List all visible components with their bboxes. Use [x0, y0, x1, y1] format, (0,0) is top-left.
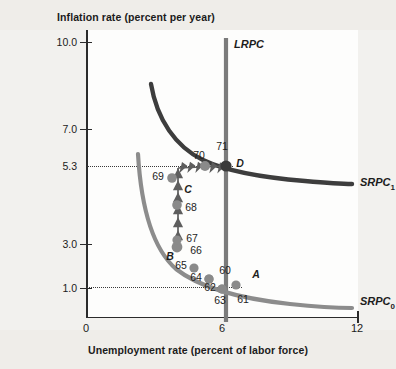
- adjustment-path-arrows: [174, 163, 226, 240]
- data-point-67: [172, 235, 181, 244]
- point-label-62: 62: [204, 281, 216, 293]
- point-label-66: 66: [190, 244, 202, 256]
- srpc1-label-text: SRPC: [360, 176, 391, 188]
- point-label-70: 70: [193, 149, 205, 161]
- point-label-71: 71: [216, 140, 228, 152]
- srpc0-label-subscript: 0: [391, 302, 395, 311]
- lrpc-label: LRPC: [234, 38, 264, 50]
- data-point-70: [200, 161, 210, 171]
- point-label-68: 68: [185, 201, 197, 213]
- srpc1-label: SRPC1: [360, 176, 395, 191]
- point-label-61: 61: [237, 293, 249, 305]
- data-point-63: [217, 284, 226, 293]
- point-label-64: 64: [190, 271, 202, 283]
- phillips-curve-figure: Inflation rate (percent per year) Unempl…: [0, 0, 396, 369]
- point-label-67: 67: [186, 232, 198, 244]
- data-point-61: [231, 280, 240, 289]
- point-label-63: 63: [214, 294, 226, 306]
- srpc0-label-text: SRPC: [360, 295, 391, 307]
- equilibrium-label-c: C: [184, 183, 192, 195]
- point-label-60: 60: [219, 264, 231, 276]
- point-label-69: 69: [152, 170, 164, 182]
- srpc1-label-subscript: 1: [391, 183, 395, 192]
- equilibrium-label-d: D: [236, 157, 244, 169]
- data-point-69: [167, 173, 177, 183]
- srpc0-label: SRPC0: [360, 295, 395, 310]
- equilibrium-label-b: B: [166, 250, 174, 262]
- data-point-68: [172, 200, 182, 210]
- data-point-71-d: [220, 160, 231, 171]
- curves-layer: [0, 0, 396, 369]
- equilibrium-label-a: A: [252, 268, 260, 280]
- point-label-65: 65: [175, 259, 187, 271]
